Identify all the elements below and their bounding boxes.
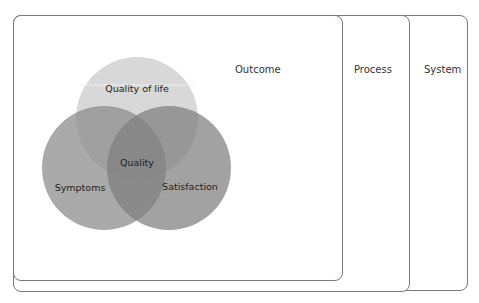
- satisfaction-label: Satisfaction: [162, 181, 218, 192]
- quality-label: Quality: [120, 157, 154, 168]
- satisfaction-circle: [107, 106, 231, 230]
- quality-of-life-label: Quality of life: [105, 83, 169, 94]
- venn-diagram: Quality of life Quality Symptoms Satisfa…: [0, 0, 479, 303]
- symptoms-label: Symptoms: [55, 182, 106, 193]
